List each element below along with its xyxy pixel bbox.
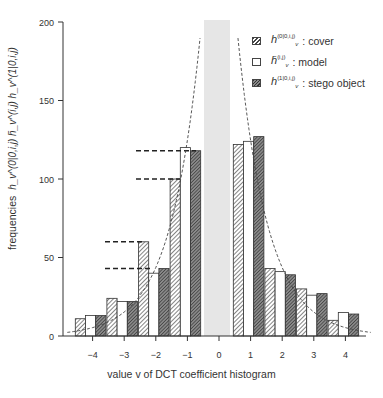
x-tick-label: −2 bbox=[151, 350, 161, 360]
bar-model bbox=[149, 273, 159, 336]
bar-model bbox=[86, 316, 96, 336]
legend-symbol: h(0|0,i,j)v bbox=[271, 33, 298, 47]
bar-stego-object bbox=[191, 151, 201, 336]
legend-symbol: h(1|0,i,j)v bbox=[271, 75, 298, 89]
hatched-swatch-icon bbox=[252, 37, 261, 45]
legend-item-stego: h(1|0,i,j)v : stego object bbox=[252, 72, 365, 93]
x-tick-label: 4 bbox=[343, 350, 348, 360]
bar-model bbox=[275, 272, 285, 336]
bar-stego-object bbox=[317, 294, 327, 336]
bar-cover bbox=[107, 298, 117, 336]
x-tick-label: 3 bbox=[311, 350, 316, 360]
legend: h(0|0,i,j)v : cover h̄(i,j)v : model h(1… bbox=[252, 30, 365, 93]
bar-model bbox=[307, 295, 317, 336]
legend-item-model: h̄(i,j)v : model bbox=[252, 51, 365, 72]
x-axis-label: value v of DCT coefficient histogram bbox=[0, 368, 383, 380]
bar-cover bbox=[233, 144, 243, 336]
y-tick-label: 0 bbox=[49, 332, 54, 342]
bar-cover bbox=[170, 179, 180, 336]
bar-cover bbox=[328, 320, 338, 336]
white-swatch-icon bbox=[252, 58, 261, 66]
bar-stego-object bbox=[349, 314, 359, 336]
y-tick-label: 50 bbox=[44, 253, 54, 263]
x-tick-label: −1 bbox=[182, 350, 192, 360]
x-tick-label: 2 bbox=[280, 350, 285, 360]
x-tick-label: 0 bbox=[216, 350, 221, 360]
bar-cover bbox=[75, 319, 85, 336]
bar-model bbox=[244, 141, 254, 336]
bar-stego-object bbox=[127, 301, 137, 336]
excluded-zero-band bbox=[204, 20, 230, 336]
bar-model bbox=[338, 312, 348, 336]
legend-symbol: h̄(i,j)v bbox=[271, 54, 288, 68]
y-tick-label: 200 bbox=[39, 18, 54, 28]
y-tick-label: 150 bbox=[39, 96, 54, 106]
x-tick-label: −4 bbox=[87, 350, 97, 360]
x-tick-label: 1 bbox=[248, 350, 253, 360]
legend-label: : stego object bbox=[302, 77, 364, 89]
bar-cover bbox=[265, 268, 275, 336]
bar-cover bbox=[139, 242, 149, 336]
bar-stego-object bbox=[254, 137, 264, 336]
legend-label: : model bbox=[292, 56, 326, 68]
x-tick-label: −3 bbox=[119, 350, 129, 360]
bar-model bbox=[180, 148, 190, 336]
y-axis-label: frequencies h_v^(0|0,i,j) h̄_v^(i,j) h_v… bbox=[6, 47, 18, 250]
gray-band bbox=[204, 20, 230, 336]
legend-item-cover: h(0|0,i,j)v : cover bbox=[252, 30, 365, 51]
dark-hatched-swatch-icon bbox=[252, 79, 261, 87]
bar-stego-object bbox=[159, 268, 169, 336]
bar-model bbox=[117, 301, 127, 336]
y-tick-label: 100 bbox=[39, 175, 54, 185]
legend-label: : cover bbox=[302, 35, 334, 47]
